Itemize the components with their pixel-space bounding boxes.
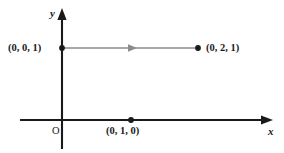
- point-label-p: (0, 2, 1): [206, 43, 239, 54]
- y-axis-arrowhead: [57, 8, 66, 20]
- x-axis-arrowhead: [261, 115, 273, 124]
- point-marker-z: [59, 45, 65, 51]
- point-label-z: (0, 0, 1): [8, 43, 41, 54]
- vector-direction-arrowhead-icon: [128, 44, 137, 52]
- point-marker-y: [128, 117, 134, 123]
- point-label-y: (0, 1, 0): [106, 126, 139, 137]
- x-axis-label: x: [268, 126, 274, 137]
- origin-label: O: [52, 126, 60, 137]
- coordinate-diagram: (0, 0, 1) (0, 2, 1) (0, 1, 0) O y x: [0, 0, 284, 153]
- y-axis-label: y: [50, 8, 55, 19]
- diagram-canvas: [0, 0, 284, 153]
- point-marker-p: [195, 45, 201, 51]
